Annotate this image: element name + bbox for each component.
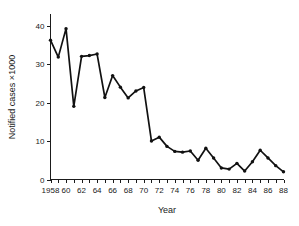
- data-point: [266, 156, 269, 159]
- data-point: [274, 164, 277, 167]
- x-axis-tick-labels: 1958606264666870727476788082848688: [42, 186, 289, 195]
- data-point: [80, 55, 83, 58]
- data-point: [95, 52, 98, 55]
- x-axis-title: Year: [158, 205, 176, 215]
- data-point: [134, 89, 137, 92]
- x-tick-label: 88: [279, 186, 288, 195]
- data-point: [282, 170, 285, 173]
- data-series-line: [51, 29, 284, 172]
- data-point: [103, 96, 106, 99]
- data-point: [119, 85, 122, 88]
- x-axis-ticks: [52, 180, 285, 184]
- data-point: [204, 147, 207, 150]
- data-point: [49, 38, 52, 41]
- data-point: [235, 162, 238, 165]
- x-tick-label: 74: [170, 186, 179, 195]
- y-tick-label: 10: [36, 137, 45, 146]
- data-point: [72, 105, 75, 108]
- data-point: [165, 145, 168, 148]
- data-series-points: [49, 27, 285, 174]
- y-axis-tick-labels: 010203040: [36, 22, 45, 185]
- data-point: [88, 54, 91, 57]
- x-tick-label: 68: [124, 186, 133, 195]
- x-tick-label: 86: [264, 186, 273, 195]
- data-point: [251, 160, 254, 163]
- y-tick-label: 30: [36, 60, 45, 69]
- x-tick-label: 62: [77, 186, 86, 195]
- data-point: [111, 74, 114, 77]
- x-tick-label: 72: [155, 186, 164, 195]
- data-point: [142, 86, 145, 89]
- data-point: [212, 156, 215, 159]
- data-point: [64, 27, 67, 30]
- x-tick-label: 70: [139, 186, 148, 195]
- y-tick-label: 40: [36, 22, 45, 31]
- x-tick-label: 78: [201, 186, 210, 195]
- data-point: [243, 169, 246, 172]
- line-chart: 010203040 195860626466687072747678808284…: [0, 0, 299, 226]
- data-point: [259, 149, 262, 152]
- axes: [51, 14, 285, 180]
- y-tick-label: 0: [40, 176, 45, 185]
- x-tick-label: 66: [108, 186, 117, 195]
- data-point: [57, 55, 60, 58]
- x-tick-label: 1958: [42, 186, 60, 195]
- y-tick-label: 20: [36, 99, 45, 108]
- x-tick-label: 84: [248, 186, 257, 195]
- data-point: [181, 150, 184, 153]
- y-axis-ticks: [47, 27, 51, 181]
- x-tick-label: 80: [217, 186, 226, 195]
- x-tick-label: 60: [62, 186, 71, 195]
- data-point: [196, 159, 199, 162]
- data-point: [227, 167, 230, 170]
- chart-figure: 010203040 195860626466687072747678808284…: [0, 0, 299, 226]
- x-tick-label: 76: [186, 186, 195, 195]
- data-point: [158, 135, 161, 138]
- x-tick-label: 82: [232, 186, 241, 195]
- x-tick-label: 64: [93, 186, 102, 195]
- data-point: [150, 139, 153, 142]
- data-point: [173, 150, 176, 153]
- data-point: [189, 149, 192, 152]
- data-point: [220, 166, 223, 169]
- data-point: [126, 96, 129, 99]
- y-axis-title: Notified cases ×1000: [7, 55, 17, 139]
